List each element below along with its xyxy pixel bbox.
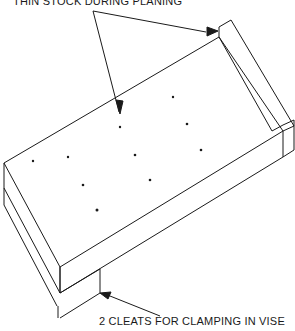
label-cleats: 2 CLEATS FOR CLAMPING IN VISE: [99, 315, 285, 327]
leader-line-2: [93, 11, 206, 32]
leader-line-3: [105, 294, 160, 316]
cleat-side: [60, 269, 100, 318]
leader-line-1: [93, 11, 119, 112]
arrowhead-3: [100, 292, 111, 299]
board-top-face: [4, 37, 283, 267]
arrowhead-2: [207, 27, 218, 36]
planing-board-diagram: [0, 0, 295, 331]
